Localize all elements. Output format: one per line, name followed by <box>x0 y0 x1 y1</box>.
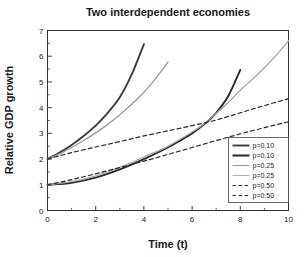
y-tick-label: 7 <box>39 27 44 36</box>
y-tick-label: 6 <box>39 52 44 61</box>
y-tick-label: 0 <box>39 207 44 216</box>
x-tick-label: 6 <box>190 215 195 224</box>
legend-label-4: p=0.50 <box>253 182 275 190</box>
y-axis-title: Relative GDP growth <box>3 65 15 174</box>
legend-label-1: p=0.10 <box>253 152 275 160</box>
x-tick-label: 10 <box>284 215 293 224</box>
chart-legend[interactable]: p=0.10p=0.10p=0.25p=0.25p=0.50p=0.50 <box>229 138 289 203</box>
y-tick-label: 2 <box>39 155 44 164</box>
y-tick-label: 3 <box>39 129 44 138</box>
x-tick-label: 0 <box>45 215 50 224</box>
y-tick-label: 1 <box>39 181 44 190</box>
y-tick-label: 4 <box>39 104 44 113</box>
x-tick-label: 2 <box>93 215 98 224</box>
legend-label-3: p=0.25 <box>253 172 275 180</box>
legend-label-2: p=0.25 <box>253 162 275 170</box>
legend-label-5: p=0.50 <box>253 192 275 200</box>
y-tick-label: 5 <box>39 78 44 87</box>
legend-label-0: p=0.10 <box>253 142 275 150</box>
x-tick-label: 8 <box>238 215 243 224</box>
chart-figure: Two interdependent economies 02468100123… <box>0 0 306 257</box>
x-axis-title: Time (t) <box>148 238 188 250</box>
x-tick-label: 4 <box>142 215 147 224</box>
chart-title: Two interdependent economies <box>86 6 250 18</box>
